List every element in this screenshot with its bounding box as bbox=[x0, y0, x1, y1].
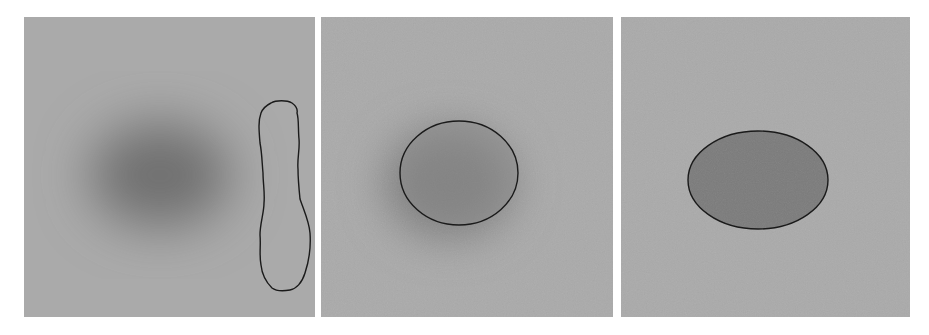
noise-overlay bbox=[621, 17, 910, 317]
panel-1-initial-contour: Noisy gray image with blurred dark ellip… bbox=[24, 17, 315, 317]
panel-2-intermediate-contour: Noisy gray image with blurred dark blob;… bbox=[321, 17, 613, 317]
panel-2-canvas bbox=[321, 17, 613, 317]
segmentation-contour bbox=[400, 121, 518, 225]
panel-3-canvas bbox=[621, 17, 910, 317]
panel-3-final-contour: Gray image with sharp-edged darker ellip… bbox=[621, 17, 910, 317]
panel-1-canvas bbox=[24, 17, 315, 317]
segmentation-figure: Noisy gray image with blurred dark ellip… bbox=[0, 0, 929, 335]
